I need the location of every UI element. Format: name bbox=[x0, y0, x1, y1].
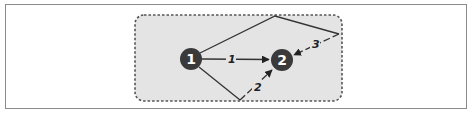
path-1-label: 1 bbox=[228, 53, 236, 66]
network-region bbox=[135, 15, 342, 101]
path-2-label: 2 bbox=[254, 81, 262, 94]
node-1: 1 bbox=[180, 48, 202, 70]
node-2: 2 bbox=[271, 49, 293, 71]
node-2-label: 2 bbox=[277, 52, 287, 68]
node-1-label: 1 bbox=[186, 51, 196, 67]
routing-diagram: 1 2 3 1 2 bbox=[0, 0, 475, 116]
path-3-label: 3 bbox=[312, 38, 320, 51]
